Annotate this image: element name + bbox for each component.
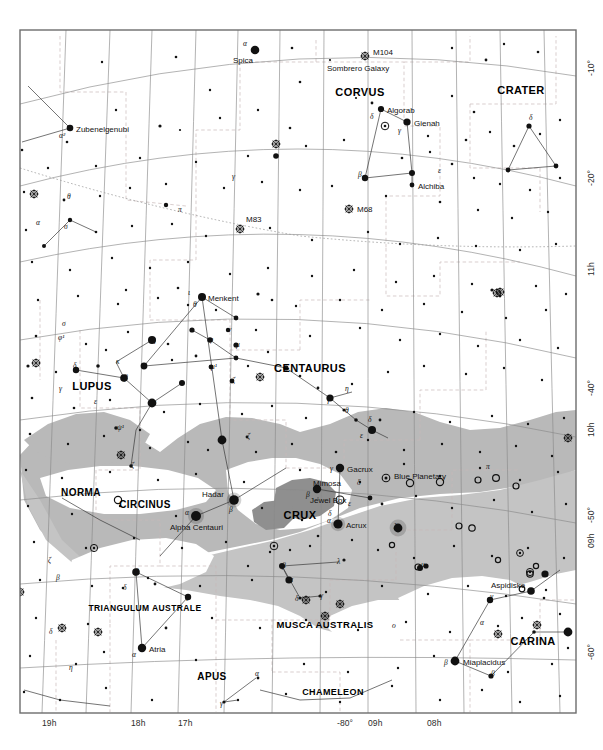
greek-designation: γ	[59, 384, 62, 393]
constellation-label-chameleon: CHAMELEON	[302, 687, 364, 697]
constellation-label-centaurus: CENTAURUS	[274, 362, 346, 374]
greek-designation: ε	[348, 499, 351, 508]
greek-designation: γ	[330, 464, 333, 473]
greek-designation: ζ	[48, 556, 51, 565]
greek-designation: η	[152, 335, 156, 344]
greek-designation: β	[358, 170, 362, 179]
greek-designation: γ	[220, 699, 223, 708]
greek-designation: γ	[320, 591, 323, 600]
star-label-miaplacidus: Miaplacidus	[463, 658, 505, 667]
dso-label-m68: M68	[357, 205, 373, 214]
star-label-spica: Spica	[233, 56, 253, 65]
greek-designation: α	[289, 575, 293, 584]
greek-designation: δ	[529, 113, 533, 122]
greek-designation: β	[135, 567, 139, 576]
greek-designation: δ	[73, 361, 77, 370]
star-label-algorab: Algorab	[387, 106, 415, 115]
dec-tick-label: 09h	[586, 534, 596, 548]
dec-tick-label: 11h	[586, 262, 596, 276]
greek-designation: γ	[327, 395, 330, 404]
constellation-label-crater: CRATER	[497, 84, 544, 96]
constellation-label-crux: CRUX	[284, 509, 317, 521]
constellation-label-triangulum-australe: TRIANGULUM AUSTRALE	[88, 603, 201, 613]
ra-tick-label: 08h	[427, 718, 441, 728]
greek-designation: λ	[394, 522, 397, 531]
greek-designation: ζ	[232, 376, 235, 385]
greek-designation: ν	[490, 592, 493, 601]
dec-tick-label: -50°	[586, 507, 596, 523]
dso-label-jewel-box: Jewel Box	[310, 496, 346, 505]
star-chart: CORVUSCRATERCENTAURUSLUPUSNORMACIRCINUSC…	[0, 0, 603, 750]
greek-designation: α	[243, 39, 247, 48]
star-label-alchiba: Alchiba	[418, 182, 444, 191]
greek-designation: α	[255, 669, 259, 678]
ra-tick-label: 17h	[178, 718, 192, 728]
greek-designation: δ	[49, 627, 53, 636]
greek-designation: ν	[228, 325, 231, 334]
greek-designation: μ¹	[211, 362, 217, 371]
m83-marker	[235, 224, 244, 233]
dso-label-m83: M83	[246, 215, 262, 224]
greek-designation: ε	[438, 166, 441, 175]
m104-marker	[360, 51, 369, 60]
star-label-alpha-centauri: Alpha Centauri	[170, 523, 223, 532]
greek-designation: δ	[295, 594, 299, 603]
ra-tick-label: 18h	[131, 718, 145, 728]
greek-designation: ι	[188, 288, 190, 297]
greek-designation: φ	[209, 335, 213, 344]
star-label-aspidiske: Aspidiske	[491, 581, 525, 590]
greek-designation: λ	[337, 557, 340, 566]
star-label-zubenelgenubi: Zubenelgenubi	[76, 125, 129, 134]
greek-designation: α	[132, 650, 136, 659]
greek-designation: β	[124, 373, 128, 382]
dec-tick-label: -40°	[586, 380, 596, 396]
greek-designation: α	[480, 618, 484, 627]
greek-designation: β	[444, 658, 448, 667]
greek-designation: δ	[123, 583, 127, 592]
greek-designation: β	[56, 573, 60, 582]
star-label-gienah: Gienah	[414, 119, 440, 128]
greek-designation: δ	[370, 112, 374, 121]
constellation-label-circinus: CIRCINUS	[119, 499, 171, 510]
dso-label-m104: M104	[373, 48, 393, 57]
constellation-label-apus: APUS	[197, 671, 226, 682]
constellation-label-carina: CARINA	[510, 635, 555, 647]
dec-tick-label: -60°	[586, 644, 596, 660]
greek-designation: γ	[186, 592, 189, 601]
greek-designation: θ	[67, 192, 71, 201]
greek-designation: α²	[59, 131, 65, 140]
greek-designation: ψ¹	[117, 423, 124, 432]
greek-designation: π	[486, 462, 490, 471]
greek-designation: η	[345, 384, 349, 393]
star-label-gacrux: Gacrux	[347, 465, 373, 474]
greek-designation: γ	[398, 126, 401, 135]
greek-designation: ο	[392, 621, 396, 630]
greek-designation: σ	[62, 319, 66, 328]
greek-designation: π	[178, 205, 182, 214]
greek-designation: β	[229, 505, 233, 514]
greek-designation: ζ	[131, 461, 134, 470]
greek-designation: μ	[421, 560, 425, 569]
greek-designation: α	[185, 508, 189, 517]
greek-designation: κ	[116, 357, 120, 366]
greek-designation: θ	[345, 406, 349, 415]
star-label-mimosa: Mimosa	[313, 479, 341, 488]
greek-designation: δ	[357, 478, 361, 487]
greek-designation: θ	[193, 300, 197, 309]
greek-designation: μ	[236, 340, 240, 349]
constellation-label-corvus: CORVUS	[335, 86, 384, 98]
greek-designation: β	[282, 561, 286, 570]
dec-tick-label: -20°	[586, 170, 596, 186]
dec-tick-label: -10°	[586, 60, 596, 76]
greek-designation: κ	[544, 568, 548, 577]
ra-tick-label: 09h	[368, 718, 382, 728]
greek-designation: ε	[568, 627, 571, 636]
greek-designation: φ¹	[58, 333, 64, 342]
constellation-label-norma: NORMA	[61, 487, 101, 498]
star-label-acrux: Acrux	[346, 521, 366, 530]
greek-designation: β	[491, 669, 495, 678]
greek-designation: ε	[360, 431, 363, 440]
constellation-label-lupus: LUPUS	[72, 380, 111, 392]
greek-designation: α	[36, 218, 40, 227]
ra-tick-label: 19h	[42, 718, 56, 728]
